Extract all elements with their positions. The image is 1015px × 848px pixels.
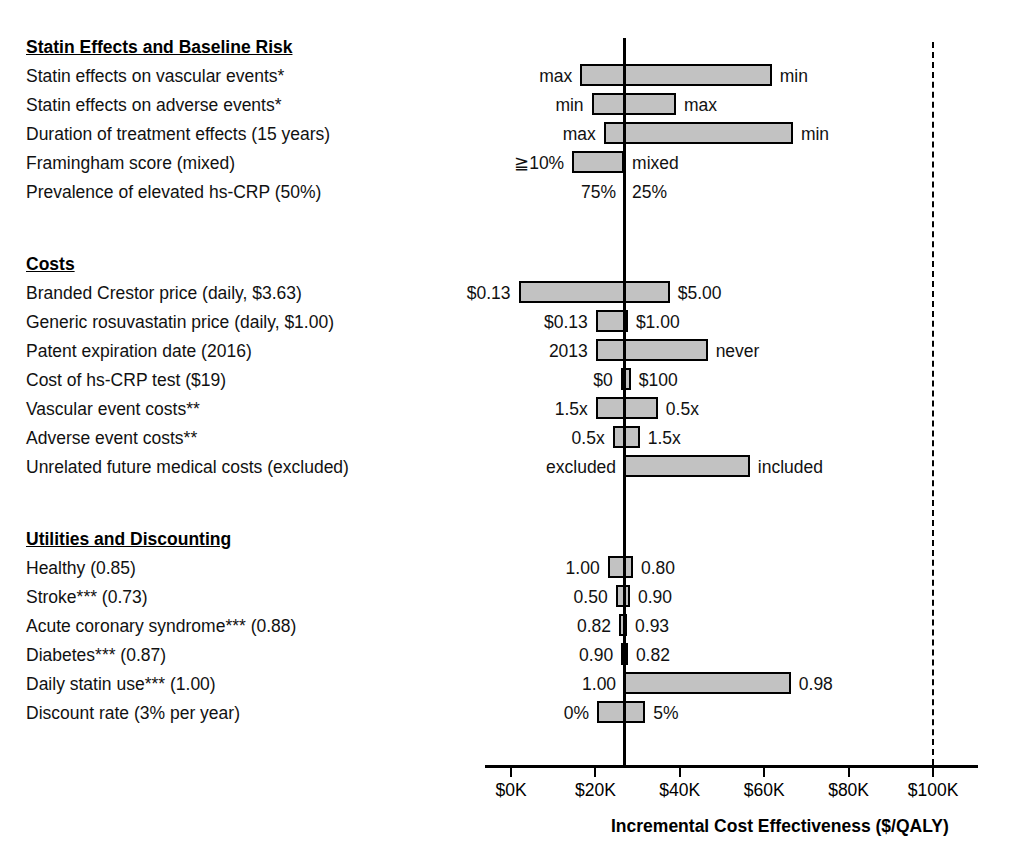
x-axis-tick <box>848 768 850 777</box>
bar-low-label: 1.00 <box>582 674 616 694</box>
bar-high-label: included <box>758 457 823 477</box>
bar-high-label: mixed <box>632 153 679 173</box>
x-axis-tick-label: $40K <box>659 780 700 800</box>
bar-high-label: $1.00 <box>636 312 680 332</box>
tornado-diagram: Statin Effects and Baseline RiskStatin e… <box>0 0 1015 848</box>
bar-low-label: excluded <box>546 457 616 477</box>
tornado-bar <box>596 397 658 419</box>
bar-low-label: 1.00 <box>566 558 600 578</box>
tornado-bar <box>597 701 645 723</box>
bar-low-label: 1.5x <box>555 399 588 419</box>
tornado-bar <box>592 93 676 115</box>
bar-low-label: 0.90 <box>579 645 613 665</box>
bar-high-label: 0.80 <box>641 558 675 578</box>
tornado-bar <box>613 426 640 448</box>
x-axis-tick <box>594 768 596 777</box>
base-case-line <box>623 38 626 765</box>
bar-low-label: 0.82 <box>577 616 611 636</box>
x-axis-tick-label: $20K <box>575 780 616 800</box>
bar-high-label: 5% <box>653 703 678 723</box>
willingness-to-pay-threshold-line <box>932 42 934 765</box>
bar-high-label: 0.93 <box>635 616 669 636</box>
bar-low-label: $0 <box>593 370 612 390</box>
bar-high-label: $100 <box>639 370 678 390</box>
bar-low-label: 0.50 <box>574 587 608 607</box>
tornado-bar <box>519 281 670 303</box>
x-axis-tick-label: $0K <box>495 780 526 800</box>
x-axis-tick <box>932 768 934 777</box>
bar-low-label: 0% <box>564 703 589 723</box>
tornado-bar <box>596 339 708 361</box>
bar-high-label: max <box>684 95 717 115</box>
tornado-bar <box>624 672 791 694</box>
bar-low-label: $0.13 <box>544 312 588 332</box>
bar-high-label: 0.5x <box>666 399 699 419</box>
bar-low-label: 0.5x <box>572 428 605 448</box>
tornado-bar <box>608 556 633 578</box>
bar-high-label: 0.90 <box>638 587 672 607</box>
x-axis-tick <box>510 768 512 777</box>
bar-high-label: 25% <box>632 182 667 202</box>
bar-high-label: 0.82 <box>636 645 670 665</box>
bar-low-label: $0.13 <box>467 283 511 303</box>
tornado-bar <box>624 455 750 477</box>
tornado-bar <box>572 151 624 173</box>
tornado-bar <box>580 64 772 86</box>
x-axis-tick-label: $100K <box>908 780 959 800</box>
bar-low-label: max <box>563 124 596 144</box>
bar-high-label: min <box>780 66 808 86</box>
bar-low-label: min <box>555 95 583 115</box>
bar-low-label: 75% <box>581 182 616 202</box>
plot-area: maxminminmaxmaxmin≧10%mixed75%25%$0.13$5… <box>0 0 1015 848</box>
bar-high-label: $5.00 <box>678 283 722 303</box>
bar-low-label: 2013 <box>549 341 588 361</box>
bar-high-label: 1.5x <box>648 428 681 448</box>
bar-high-label: never <box>716 341 760 361</box>
bar-high-label: min <box>801 124 829 144</box>
x-axis-tick <box>763 768 765 777</box>
x-axis-tick-label: $60K <box>744 780 785 800</box>
x-axis-line <box>485 765 978 768</box>
bar-low-label: ≧10% <box>514 153 564 173</box>
x-axis-tick <box>679 768 681 777</box>
bar-high-label: 0.98 <box>799 674 833 694</box>
tornado-bar <box>604 122 793 144</box>
x-axis-title: Incremental Cost Effectiveness ($/QALY) <box>611 816 949 837</box>
x-axis-tick-label: $80K <box>828 780 869 800</box>
bar-low-label: max <box>539 66 572 86</box>
